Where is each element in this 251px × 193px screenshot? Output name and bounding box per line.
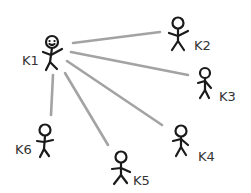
stick-figure-icon: [169, 18, 188, 51]
edges: [51, 32, 188, 145]
node-k3: K3: [198, 68, 236, 104]
node-k4: K4: [173, 126, 215, 165]
node-k5: K5: [112, 152, 150, 189]
node-label: K3: [219, 89, 236, 104]
edge-k1-k2: [73, 32, 160, 43]
node-k2: K2: [169, 18, 211, 54]
node-k1: K1: [22, 36, 62, 70]
stick-figure-icon: [43, 36, 62, 70]
node-label: K6: [15, 142, 32, 157]
node-label: K2: [194, 38, 211, 53]
node-k6: K6: [15, 125, 53, 158]
node-label: K1: [22, 53, 39, 68]
network-diagram: K1 K2 K3 K4: [0, 0, 251, 193]
edge-k1-k4: [67, 61, 162, 125]
stick-figure-icon: [173, 126, 188, 157]
stick-figure-icon: [37, 125, 53, 158]
stick-figure-icon: [198, 68, 211, 98]
edge-k1-k3: [71, 52, 188, 75]
stick-figure-icon: [112, 152, 130, 185]
node-label: K5: [133, 173, 150, 188]
edge-k1-k6: [51, 75, 53, 115]
node-label: K4: [198, 149, 215, 164]
